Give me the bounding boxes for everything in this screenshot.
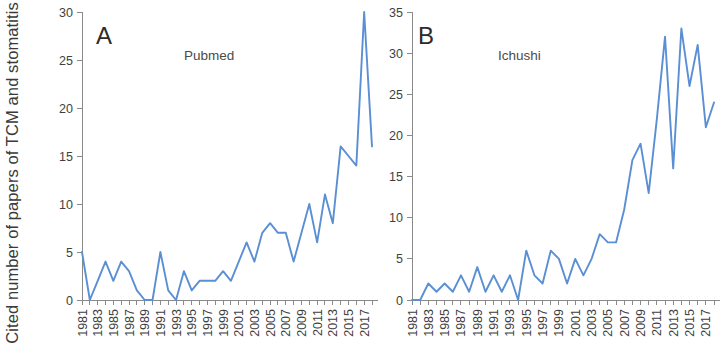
x-tick-label: 2017	[358, 309, 372, 337]
panel-a-plot: 0510152025301981198319851987198919911993…	[24, 0, 380, 346]
y-tick-label: 25	[59, 54, 73, 68]
x-tick-label: 2009	[634, 309, 648, 337]
y-tick-label: 10	[59, 198, 73, 212]
x-tick-label: 2007	[279, 309, 293, 337]
x-tick-label: 2001	[232, 309, 246, 337]
x-tick-label: 2003	[585, 309, 599, 337]
y-tick-label: 0	[66, 294, 73, 308]
x-tick-label: 1989	[138, 309, 152, 337]
panel-b-ichushi: B Ichushi 051015202530351981198319851987…	[380, 0, 722, 346]
x-tick-label: 2015	[342, 309, 356, 337]
x-tick-label: 2003	[248, 309, 262, 337]
x-tick-label: 1983	[422, 309, 436, 337]
y-axis-title: Cited number of papers of TCM and stomat…	[3, 2, 22, 344]
x-tick-label: 1991	[154, 309, 168, 337]
x-tick-label: 2009	[295, 309, 309, 337]
y-tick-label: 30	[59, 6, 73, 20]
x-tick-label: 1981	[76, 309, 90, 337]
y-tick-label: 5	[396, 252, 403, 266]
y-tick-label: 15	[389, 170, 403, 184]
x-tick-label: 2013	[326, 309, 340, 337]
x-tick-label: 1999	[552, 309, 566, 337]
y-tick-label: 20	[59, 102, 73, 116]
x-tick-label: 1991	[487, 309, 501, 337]
y-axis-title-container: Cited number of papers of TCM and stomat…	[0, 0, 24, 346]
y-tick-label: 5	[66, 246, 73, 260]
y-tick-label: 25	[389, 88, 403, 102]
x-tick-label: 2011	[650, 309, 664, 336]
data-series-line	[412, 28, 714, 300]
panel-a-pubmed: A Pubmed 0510152025301981198319851987198…	[24, 0, 380, 346]
y-tick-label: 0	[396, 294, 403, 308]
x-tick-label: 1993	[170, 309, 184, 337]
y-tick-label: 35	[389, 6, 403, 20]
x-tick-label: 1989	[471, 309, 485, 337]
panel-b-plot: 0510152025303519811983198519871989199119…	[380, 0, 722, 346]
x-tick-label: 1983	[91, 309, 105, 337]
x-tick-label: 1993	[503, 309, 517, 337]
x-tick-label: 1995	[185, 309, 199, 337]
x-tick-label: 1985	[438, 309, 452, 337]
x-tick-label: 1981	[406, 309, 420, 337]
x-tick-label: 2007	[618, 309, 632, 337]
x-tick-label: 2005	[601, 309, 615, 337]
x-tick-label: 2005	[264, 309, 278, 337]
x-tick-label: 2017	[699, 309, 713, 337]
x-tick-label: 1987	[454, 309, 468, 337]
x-tick-label: 1995	[520, 309, 534, 337]
x-tick-label: 2013	[667, 309, 681, 337]
x-tick-label: 1987	[123, 309, 137, 337]
x-tick-label: 2015	[683, 309, 697, 337]
y-tick-label: 10	[389, 211, 403, 225]
y-tick-label: 15	[59, 150, 73, 164]
x-tick-label: 1985	[107, 309, 121, 337]
x-tick-label: 2001	[569, 309, 583, 337]
x-tick-label: 1999	[217, 309, 231, 337]
x-tick-label: 1997	[536, 309, 550, 337]
x-tick-label: 1997	[201, 309, 215, 337]
figure-two-panel-line-charts: Cited number of papers of TCM and stomat…	[0, 0, 722, 346]
data-series-line	[82, 12, 372, 300]
x-tick-label: 2011	[311, 309, 325, 336]
y-tick-label: 30	[389, 47, 403, 61]
y-tick-label: 20	[389, 129, 403, 143]
